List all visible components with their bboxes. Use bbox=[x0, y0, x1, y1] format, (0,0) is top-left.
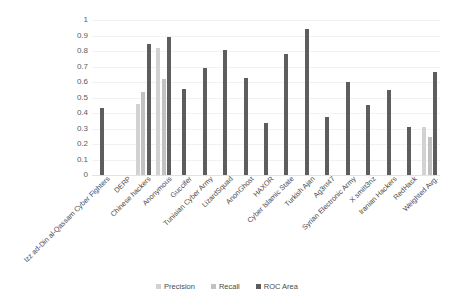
bar-recall bbox=[162, 79, 166, 175]
bar-precision bbox=[136, 104, 140, 175]
bar-group bbox=[420, 20, 440, 175]
legend-label: Precision bbox=[164, 282, 195, 291]
bar-roc-area bbox=[167, 37, 171, 175]
bar-group bbox=[276, 20, 296, 175]
bar-roc-area bbox=[387, 90, 391, 175]
bar-group bbox=[235, 20, 255, 175]
bar-group bbox=[338, 20, 358, 175]
bar-roc-area bbox=[147, 44, 151, 175]
y-axis-tick-label: 1 bbox=[84, 16, 88, 24]
bar-chart: 10.90.80.70.60.50.40.30.20.10 Izz ad-Din… bbox=[0, 0, 454, 300]
bar-precision bbox=[422, 127, 426, 175]
bar-roc-area bbox=[264, 123, 268, 175]
bar-precision bbox=[156, 48, 160, 175]
bar-group bbox=[194, 20, 214, 175]
bar-roc-area bbox=[433, 72, 437, 175]
bar-group bbox=[317, 20, 337, 175]
bar-group bbox=[358, 20, 378, 175]
y-axis-tick-label: 0.2 bbox=[77, 140, 88, 148]
bar-roc-area bbox=[346, 82, 350, 175]
legend-label: Recall bbox=[219, 282, 240, 291]
bar-roc-area bbox=[305, 29, 309, 175]
bar-recall bbox=[428, 137, 432, 175]
legend-item[interactable]: ROC Area bbox=[256, 282, 298, 291]
bar-roc-area bbox=[244, 78, 248, 175]
plot-area bbox=[92, 20, 440, 175]
legend-swatch-icon bbox=[256, 284, 261, 289]
legend-swatch-icon bbox=[211, 284, 216, 289]
bar-group bbox=[153, 20, 173, 175]
bar-recall bbox=[141, 92, 145, 175]
y-axis-tick-label: 0.9 bbox=[77, 32, 88, 40]
legend-swatch-icon bbox=[156, 284, 161, 289]
y-axis-tick-labels: 10.90.80.70.60.50.40.30.20.10 bbox=[62, 20, 88, 175]
bar-roc-area bbox=[407, 127, 411, 175]
bar-group bbox=[399, 20, 419, 175]
bar-roc-area bbox=[182, 89, 186, 175]
bar-group bbox=[297, 20, 317, 175]
bar-group bbox=[92, 20, 112, 175]
y-axis-tick-label: 0.4 bbox=[77, 109, 88, 117]
y-axis-tick-label: 0.6 bbox=[77, 78, 88, 86]
y-axis-tick-label: 0.1 bbox=[77, 156, 88, 164]
bar-roc-area bbox=[223, 50, 227, 175]
y-axis-tick-label: 0.8 bbox=[77, 47, 88, 55]
bar-roc-area bbox=[203, 68, 207, 175]
bar-group bbox=[379, 20, 399, 175]
y-axis-tick-label: 0.5 bbox=[77, 94, 88, 102]
legend-label: ROC Area bbox=[264, 282, 298, 291]
chart-legend: PrecisionRecallROC Area bbox=[0, 278, 454, 294]
bar-group bbox=[256, 20, 276, 175]
chart-title bbox=[0, 0, 454, 12]
bar-group bbox=[174, 20, 194, 175]
bar-roc-area bbox=[366, 105, 370, 175]
legend-item[interactable]: Precision bbox=[156, 282, 195, 291]
bar-group bbox=[112, 20, 132, 175]
y-axis-tick-label: 0.3 bbox=[77, 125, 88, 133]
bar-roc-area bbox=[284, 54, 288, 175]
bar-group bbox=[215, 20, 235, 175]
x-axis-tick-labels: Izz ad-Din al-Qassam Cyber FightersDERPC… bbox=[0, 175, 454, 270]
bar-roc-area bbox=[325, 117, 329, 175]
legend-item[interactable]: Recall bbox=[211, 282, 240, 291]
y-axis-tick-label: 0.7 bbox=[77, 63, 88, 71]
bar-roc-area bbox=[100, 108, 104, 175]
bar-group bbox=[133, 20, 153, 175]
